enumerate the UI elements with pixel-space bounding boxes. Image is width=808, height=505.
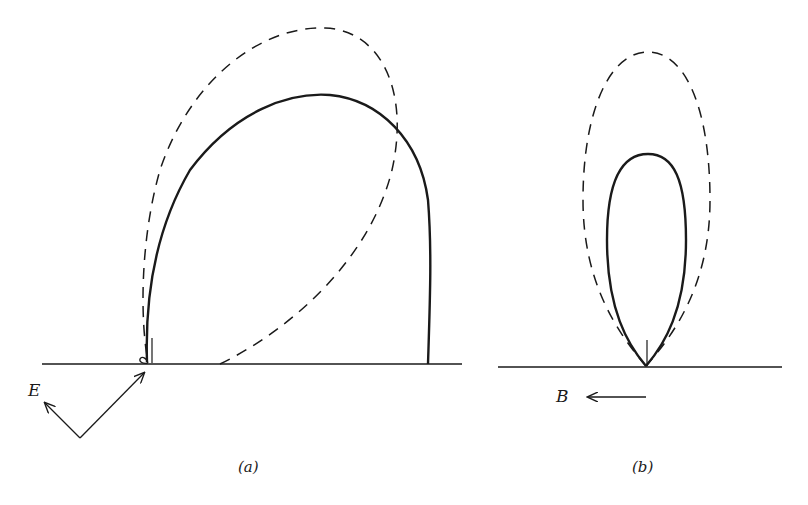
figure-canvas	[0, 0, 808, 505]
caption-a: (a)	[238, 458, 259, 476]
e-field-arrow	[45, 403, 80, 438]
dashed-lobe	[583, 52, 710, 366]
caption-b: (b)	[632, 458, 653, 476]
panel-a	[42, 28, 462, 438]
radiation-pattern-figure: E B (a) (b)	[0, 0, 808, 505]
panel-b	[498, 52, 782, 397]
b-vector-label: B	[556, 386, 569, 406]
solid-lobe	[147, 95, 431, 364]
dashed-lobe	[143, 28, 397, 364]
e-vector-label: E	[28, 380, 40, 400]
incident-direction-arrow	[80, 373, 144, 438]
solid-lobe	[607, 154, 686, 366]
